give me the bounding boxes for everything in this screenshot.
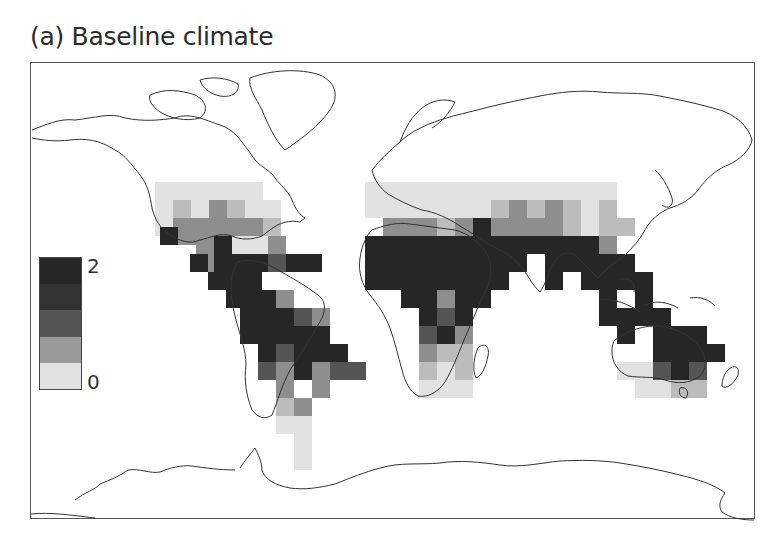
heatmap-cell bbox=[209, 200, 227, 218]
heatmap-cell bbox=[276, 362, 294, 380]
heatmap-cell bbox=[653, 362, 671, 380]
coastline-arctic-islands bbox=[149, 78, 238, 120]
heatmap-cell bbox=[491, 272, 509, 290]
heatmap-cell bbox=[437, 236, 455, 254]
heatmap-cell bbox=[419, 182, 437, 200]
heatmap-cell bbox=[419, 200, 437, 218]
coastline-greenland bbox=[250, 71, 336, 150]
heatmap-cell bbox=[419, 272, 437, 290]
heatmap-cell bbox=[671, 344, 689, 362]
heatmap-cell bbox=[455, 290, 473, 308]
heatmap-cell bbox=[545, 272, 563, 290]
heatmap-cell bbox=[491, 200, 509, 218]
heatmap-cell bbox=[473, 182, 491, 200]
heatmap-cell bbox=[312, 326, 330, 344]
heatmap-cell bbox=[401, 290, 419, 308]
heatmap-cell bbox=[599, 290, 617, 308]
heatmap-cell bbox=[312, 362, 330, 380]
heatmap-cell bbox=[304, 254, 322, 272]
heatmap-cell bbox=[191, 182, 209, 200]
heatmap-cell bbox=[276, 290, 294, 308]
heatmap-cell bbox=[437, 380, 455, 398]
heatmap-cell bbox=[527, 182, 545, 200]
heatmap-cell bbox=[383, 272, 401, 290]
heatmap-cell bbox=[545, 236, 563, 254]
heatmap-cell bbox=[226, 272, 244, 290]
heatmap-cell bbox=[245, 182, 263, 200]
heatmap-cell bbox=[330, 362, 348, 380]
heatmap-cell bbox=[437, 254, 455, 272]
heatmap-cell bbox=[581, 200, 599, 218]
heatmap-cell bbox=[294, 326, 312, 344]
heatmap-cell bbox=[473, 236, 491, 254]
heatmap-cell bbox=[155, 200, 173, 218]
heatmap-cell bbox=[653, 344, 671, 362]
legend-max-label: 2 bbox=[87, 254, 100, 278]
heatmap-cell bbox=[232, 254, 250, 272]
heatmap-cell bbox=[437, 326, 455, 344]
legend-min-label: 0 bbox=[87, 370, 100, 394]
heatmap-cell bbox=[689, 326, 707, 344]
heatmap-cell bbox=[258, 362, 276, 380]
heatmap-cell bbox=[226, 290, 244, 308]
heatmap-cell bbox=[581, 182, 599, 200]
heatmap-cell bbox=[312, 380, 330, 398]
heatmap-cell bbox=[227, 182, 245, 200]
heatmap-cell bbox=[527, 200, 545, 218]
heatmap-cell bbox=[455, 380, 473, 398]
heatmap-cell bbox=[276, 344, 294, 362]
heatmap-cell bbox=[263, 200, 281, 218]
heatmap-cell bbox=[563, 200, 581, 218]
heatmap-cell bbox=[209, 218, 227, 236]
heatmap-cell bbox=[383, 182, 401, 200]
heatmap-cell bbox=[419, 236, 437, 254]
heatmap-cell bbox=[330, 344, 348, 362]
heatmap-cell bbox=[509, 218, 527, 236]
heatmap-cell bbox=[401, 236, 419, 254]
heatmap-cell bbox=[312, 308, 330, 326]
heatmap-cell bbox=[617, 254, 635, 272]
heatmap-cell bbox=[473, 218, 491, 236]
heatmap-cell bbox=[563, 236, 581, 254]
heatmap-cell bbox=[294, 398, 312, 416]
heatmap-cell bbox=[437, 362, 455, 380]
heatmap-cell bbox=[563, 218, 581, 236]
heatmap-cell bbox=[383, 254, 401, 272]
coastline-antarctica bbox=[31, 448, 754, 520]
heatmap-cell bbox=[173, 200, 191, 218]
heatmap-cell bbox=[214, 254, 232, 272]
heatmap-cell bbox=[437, 344, 455, 362]
heatmap-cell bbox=[455, 272, 473, 290]
heatmap-cell bbox=[527, 236, 545, 254]
heatmap-cell bbox=[437, 308, 455, 326]
coastline-madagascar bbox=[474, 345, 489, 378]
heatmap-cell bbox=[455, 344, 473, 362]
heatmap-cell bbox=[245, 200, 263, 218]
heatmap-cell bbox=[455, 236, 473, 254]
heatmap-cell bbox=[258, 308, 276, 326]
heatmap-cell bbox=[294, 452, 312, 470]
heatmap-cell bbox=[491, 254, 509, 272]
heatmap-cell bbox=[419, 326, 437, 344]
heatmap-cell bbox=[653, 380, 671, 398]
heatmap-cell bbox=[294, 416, 312, 434]
heatmap-cell bbox=[401, 218, 419, 236]
heatmap-cell bbox=[491, 218, 509, 236]
heatmap-cell bbox=[563, 254, 581, 272]
heatmap-cell bbox=[455, 254, 473, 272]
heatmap-cell bbox=[437, 182, 455, 200]
heatmap-cell bbox=[545, 254, 563, 272]
legend-swatch-0 bbox=[40, 363, 81, 389]
heatmap-cell bbox=[383, 200, 401, 218]
color-legend bbox=[39, 257, 82, 390]
heatmap-cell bbox=[617, 308, 635, 326]
heatmap-cell bbox=[209, 182, 227, 200]
heatmap-cell bbox=[707, 344, 725, 362]
heatmap-cell bbox=[244, 272, 262, 290]
heatmap-cell bbox=[191, 200, 209, 218]
heatmap-cell bbox=[365, 200, 383, 218]
heatmap-cells bbox=[155, 182, 725, 470]
heatmap-cell bbox=[250, 254, 268, 272]
heatmap-cell bbox=[155, 182, 173, 200]
heatmap-cell bbox=[312, 344, 330, 362]
